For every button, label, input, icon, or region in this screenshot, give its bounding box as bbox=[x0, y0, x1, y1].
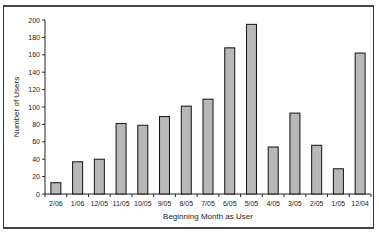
bar-1-05 bbox=[333, 169, 343, 194]
bar-5-05 bbox=[246, 24, 256, 194]
y-tick-label: 40 bbox=[32, 156, 40, 163]
x-tick-label: 12/04 bbox=[351, 200, 369, 207]
x-tick-label: 9/05 bbox=[158, 200, 172, 207]
bar-12-05 bbox=[94, 159, 104, 194]
x-axis-title: Beginning Month as User bbox=[163, 212, 253, 221]
y-tick-label: 20 bbox=[32, 173, 40, 180]
bar-3-05 bbox=[290, 113, 300, 194]
x-tick-label: 5/05 bbox=[245, 200, 259, 207]
y-tick-label: 140 bbox=[28, 69, 40, 76]
y-tick-label: 60 bbox=[32, 138, 40, 145]
x-tick-label: 12/05 bbox=[91, 200, 109, 207]
x-tick-label: 1/05 bbox=[332, 200, 346, 207]
y-tick-label: 120 bbox=[28, 86, 40, 93]
x-tick-label: 3/05 bbox=[288, 200, 302, 207]
bar-8-05 bbox=[181, 106, 191, 194]
y-tick-label: 180 bbox=[28, 34, 40, 41]
y-tick-label: 80 bbox=[32, 121, 40, 128]
y-tick-label: 100 bbox=[28, 104, 40, 111]
bar-2-05 bbox=[312, 145, 322, 194]
x-tick-label: 1/06 bbox=[71, 200, 85, 207]
bar-2-06 bbox=[51, 183, 61, 194]
bar-1-06 bbox=[73, 162, 83, 194]
bar-10-05 bbox=[138, 125, 148, 194]
x-tick-label: 7/05 bbox=[201, 200, 215, 207]
bar-7-05 bbox=[203, 99, 213, 194]
x-tick-label: 11/05 bbox=[113, 200, 130, 207]
y-tick-label: 0 bbox=[36, 191, 40, 198]
x-tick-label: 10/05 bbox=[134, 200, 152, 207]
bar-6-05 bbox=[225, 48, 235, 194]
bar-9-05 bbox=[160, 117, 170, 194]
y-tick-label: 200 bbox=[28, 17, 40, 24]
bar-11-05 bbox=[116, 124, 126, 194]
bar-12-04 bbox=[355, 53, 365, 194]
x-tick-label: 4/05 bbox=[266, 200, 280, 207]
y-axis-title: Number of Users bbox=[12, 77, 21, 137]
x-tick-label: 2/05 bbox=[310, 200, 324, 207]
x-tick-label: 8/05 bbox=[179, 200, 193, 207]
bar-4-05 bbox=[268, 147, 278, 194]
y-tick-label: 160 bbox=[28, 51, 40, 58]
bar-chart: 0204060801001201401601802002/061/0612/05… bbox=[0, 0, 379, 233]
x-tick-label: 6/05 bbox=[223, 200, 237, 207]
x-tick-label: 2/06 bbox=[49, 200, 63, 207]
